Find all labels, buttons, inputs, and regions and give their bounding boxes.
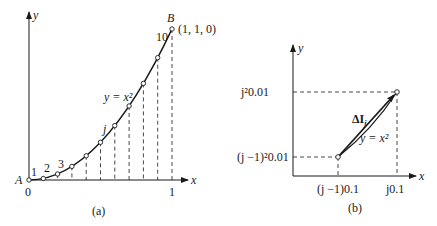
- curve-label-b: y = x²: [359, 131, 389, 145]
- x-axis-label-b: x: [418, 169, 425, 183]
- panel-b: y x j²0.01 (j −1)²0.01 (j −1)0.1 j0.1 ΔI…: [237, 41, 425, 215]
- segment-label-10: 10: [156, 30, 168, 44]
- upper-x-label: j0.1: [385, 182, 404, 196]
- x-axis-label-a: x: [190, 173, 197, 187]
- figure-canvas: y x 0 1 A B (1, 1, 0) 1 2 3 j 10 y = x² …: [0, 0, 437, 226]
- y-axis-label-b: y: [297, 41, 304, 55]
- caption-a: (a): [92, 204, 105, 218]
- curve-label-a: y = x²: [103, 90, 133, 104]
- panel-a: y x 0 1 A B (1, 1, 0) 1 2 3 j 10 y = x² …: [14, 8, 216, 218]
- point-b-coords: (1, 1, 0): [178, 22, 216, 36]
- upper-y-label: j²0.01: [240, 85, 269, 99]
- segment-label-2: 2: [44, 161, 50, 175]
- lower-point: [336, 155, 341, 160]
- point-a-label: A: [14, 173, 23, 187]
- segment-label-1: 1: [31, 165, 37, 179]
- lower-y-label: (j −1)²0.01: [237, 150, 289, 164]
- lower-x-label: (j −1)0.1: [317, 182, 359, 196]
- point-b-label: B: [167, 11, 175, 25]
- x-tick-1-label: 1: [169, 185, 175, 199]
- y-axis-label-a: y: [32, 8, 39, 22]
- origin-label: 0: [25, 185, 31, 199]
- caption-b: (b): [348, 201, 362, 215]
- segment-label-j: j: [101, 122, 107, 136]
- delta-l-label: ΔIj: [352, 112, 367, 128]
- upper-point: [395, 90, 400, 95]
- segment-label-3: 3: [58, 157, 64, 171]
